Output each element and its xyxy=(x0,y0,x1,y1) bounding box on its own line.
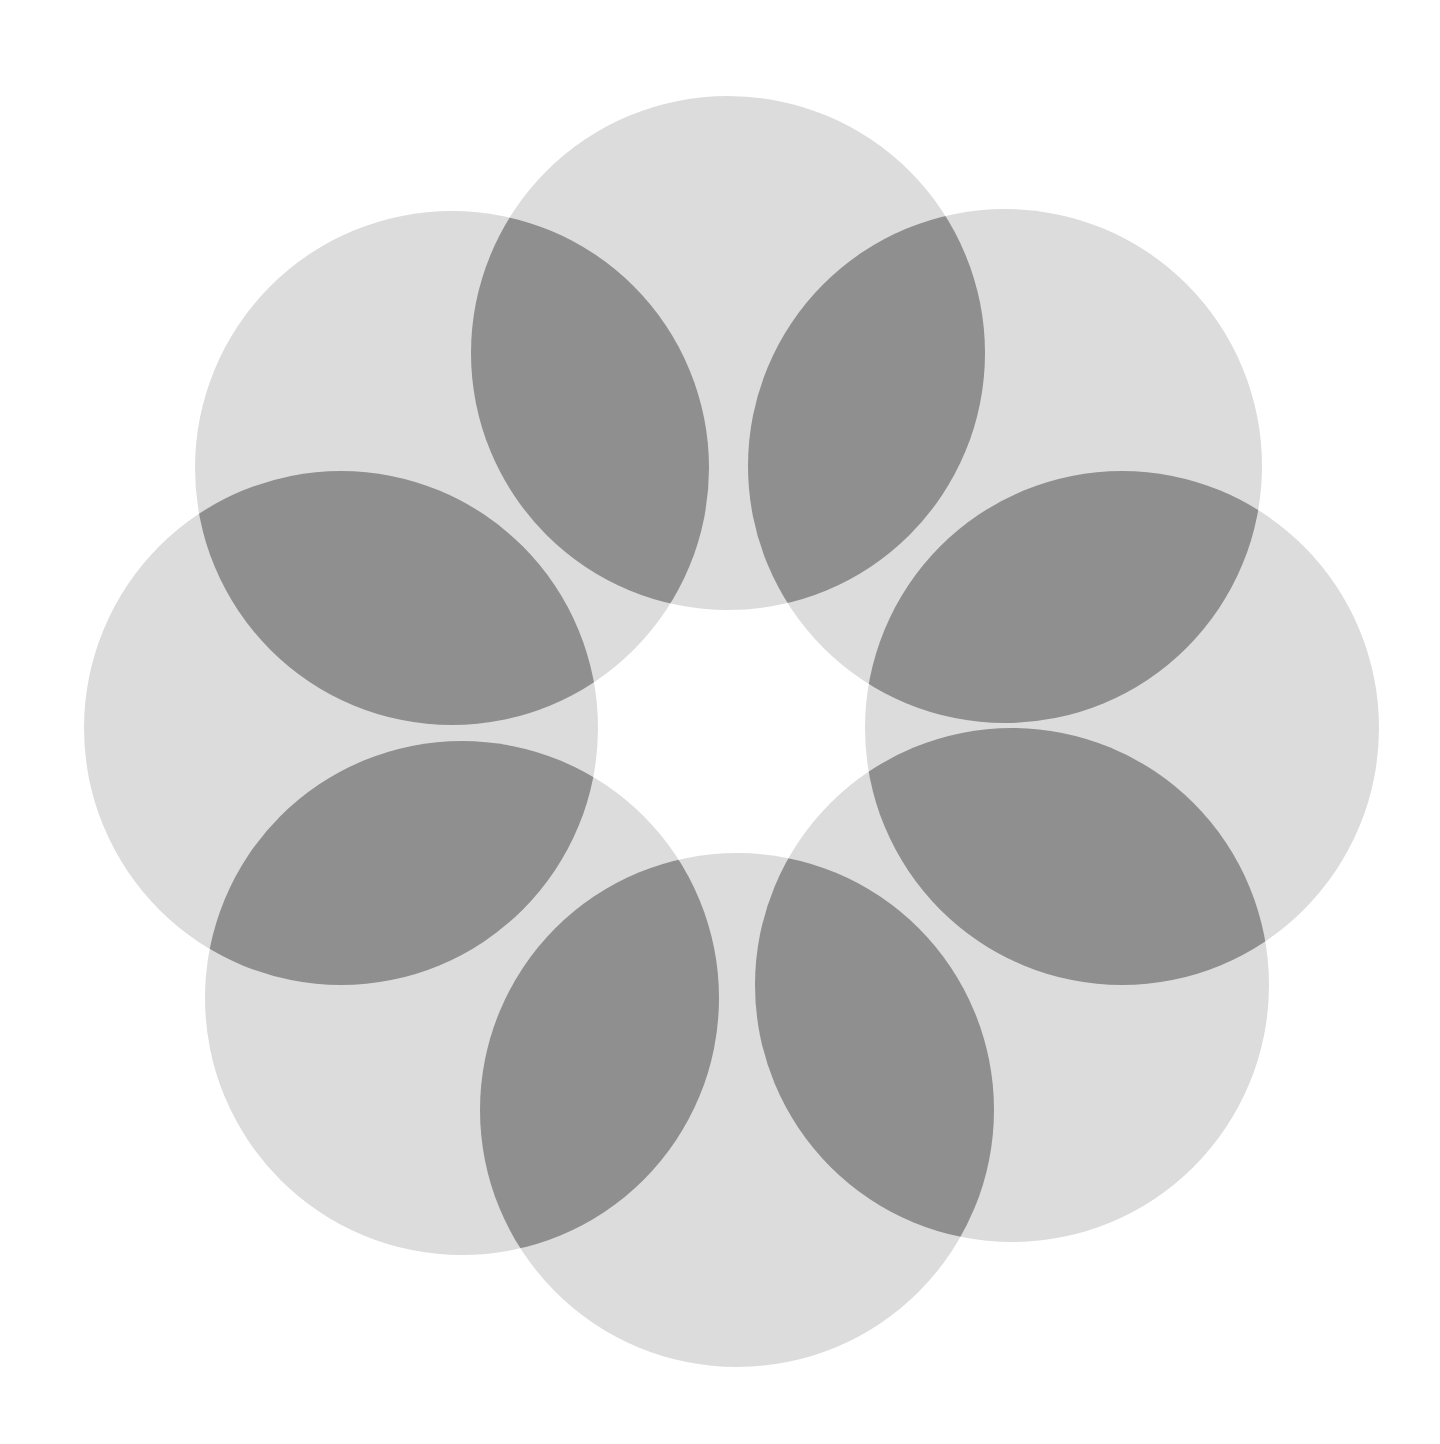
overlapping-circles-figure xyxy=(0,0,1440,1444)
